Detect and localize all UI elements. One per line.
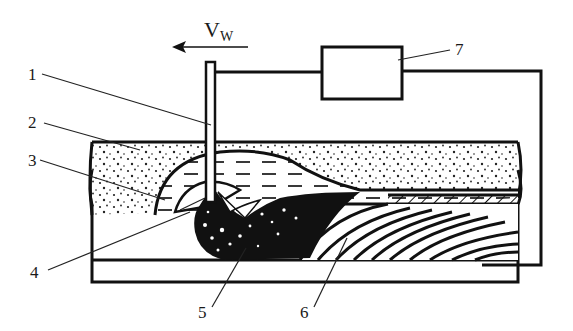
velocity-indicator: V W [172, 17, 248, 53]
label-5: 5 [198, 303, 207, 322]
label-4: 4 [30, 263, 39, 282]
velocity-symbol: V [204, 17, 220, 42]
power-source-box[interactable] [322, 47, 402, 99]
label-7: 7 [455, 40, 464, 59]
label-6: 6 [300, 303, 309, 322]
label-3: 3 [28, 151, 37, 170]
velocity-subscript: W [220, 29, 234, 44]
welding-process-diagram: V W 1 2 3 4 5 6 7 [0, 0, 573, 331]
label-2: 2 [28, 113, 37, 132]
electrode[interactable] [206, 62, 215, 202]
label-1: 1 [28, 65, 37, 84]
